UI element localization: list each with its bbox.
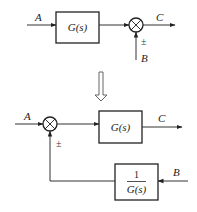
feedback-block-numerator: 1 xyxy=(134,169,139,180)
bottom-output-label: C xyxy=(158,112,166,124)
hollow-down-arrow-icon xyxy=(95,72,107,101)
top-output-label: C xyxy=(156,11,164,23)
top-g-block-label: G(s) xyxy=(68,21,88,34)
bottom-g-block-label: G(s) xyxy=(111,121,131,134)
feedback-block-denominator: G(s) xyxy=(127,183,147,196)
bottom-sign-label: ± xyxy=(56,138,62,149)
top-input-label: A xyxy=(34,11,42,23)
top-summing-junction-icon xyxy=(129,18,143,32)
top-diagram: A G(s) C B ± xyxy=(27,11,175,64)
top-sign-label: ± xyxy=(141,36,147,47)
bottom-diagram: A G(s) C 1 G(s) B ± xyxy=(15,110,188,200)
bottom-input-label: A xyxy=(23,110,31,122)
bottom-disturbance-label: B xyxy=(173,166,180,178)
top-disturbance-label: B xyxy=(141,52,148,64)
block-diagram: A G(s) C B ± A xyxy=(0,0,197,212)
bottom-summing-junction-icon xyxy=(43,117,57,131)
